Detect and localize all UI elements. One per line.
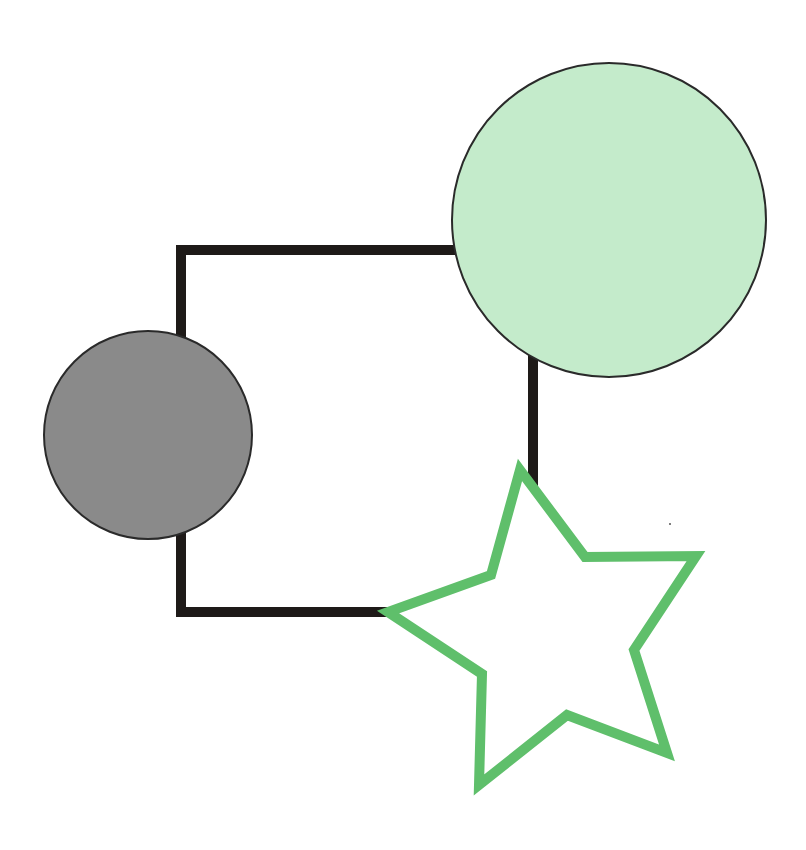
shapes-canvas <box>0 0 806 850</box>
speck-dot <box>669 523 671 525</box>
gray-circle <box>44 331 252 539</box>
green-star-outline <box>388 470 696 785</box>
light-green-circle <box>452 63 766 377</box>
